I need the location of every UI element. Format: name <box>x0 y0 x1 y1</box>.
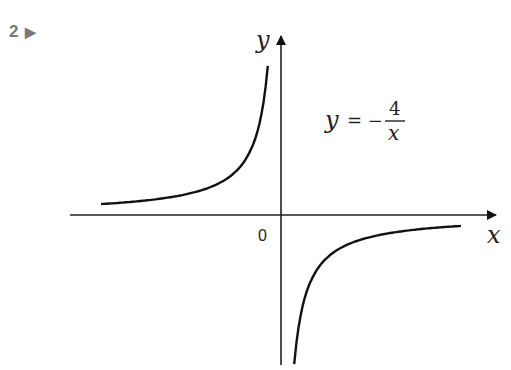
right-branch-curve <box>294 226 461 364</box>
equation-lhs: y <box>324 106 339 134</box>
equation-eq: = − <box>347 110 383 131</box>
y-axis-label: y <box>255 26 270 54</box>
equation-label: y = − 4 x <box>324 98 405 145</box>
x-axis-label: x <box>487 221 501 249</box>
equation-denominator: x <box>388 121 399 145</box>
equation-numerator: 4 <box>389 98 400 119</box>
hyperbola-graph: y x 0 y = − 4 x <box>0 0 511 370</box>
left-branch-curve <box>101 66 268 204</box>
origin-label: 0 <box>258 227 267 244</box>
